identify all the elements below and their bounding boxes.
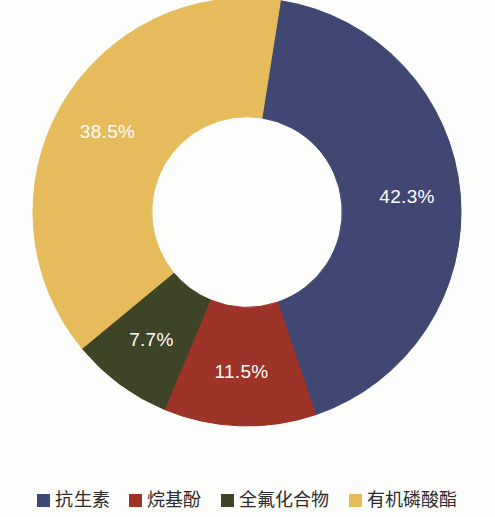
legend-swatch-icon-3 <box>221 494 234 507</box>
slice-value-label-2: 11.5% <box>215 361 269 382</box>
legend-item-3[interactable]: 全氟化合物 <box>221 490 330 510</box>
legend-item-1[interactable]: 抗生素 <box>37 490 110 510</box>
legend-label-3: 全氟化合物 <box>239 490 330 510</box>
legend-item-2[interactable]: 烷基酚 <box>129 490 202 510</box>
slice-value-label-4: 38.5% <box>80 121 135 142</box>
legend-label-1: 抗生素 <box>55 490 110 510</box>
legend-swatch-icon-4 <box>349 494 362 507</box>
slice-value-label-3: 7.7% <box>129 329 174 350</box>
legend-label-4: 有机磷酸酯 <box>367 490 458 510</box>
legend-swatch-icon-2 <box>129 494 142 507</box>
legend-label-2: 烷基酚 <box>147 490 202 510</box>
donut-chart-figure: 42.3%11.5%7.7%38.5% 抗生素烷基酚全氟化合物有机磷酸酯 <box>0 0 495 517</box>
chart-legend: 抗生素烷基酚全氟化合物有机磷酸酯 <box>0 483 495 517</box>
slice-value-label-1: 42.3% <box>379 186 434 207</box>
legend-item-4[interactable]: 有机磷酸酯 <box>349 490 458 510</box>
legend-swatch-icon-1 <box>37 494 50 507</box>
donut-chart-svg: 42.3%11.5%7.7%38.5% <box>0 0 495 440</box>
donut-chart-area: 42.3%11.5%7.7%38.5% <box>0 0 495 440</box>
